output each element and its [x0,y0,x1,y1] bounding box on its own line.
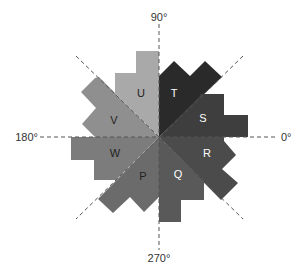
label-180-deg: 180° [15,131,38,143]
segment-label: Q [174,168,183,180]
label-270-deg: 270° [148,252,171,264]
segment-label: W [110,147,121,159]
label-90-deg: 90° [151,11,168,23]
segment-label: S [199,112,206,124]
segment-label: R [203,147,211,159]
rose-diagram: TSRQPWVU 90° 180° 0° 270° [0,0,303,280]
label-0-deg: 0° [281,131,292,143]
segment-label: P [139,170,146,182]
segment-label: V [110,114,118,126]
segment-label: T [171,87,178,99]
segment-label: U [137,87,145,99]
